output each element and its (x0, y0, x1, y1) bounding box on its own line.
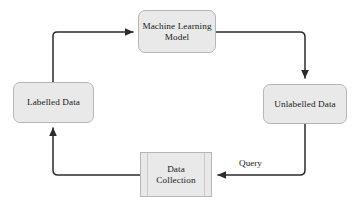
node-machine-learning-model[interactable]: Machine Learning Model (138, 10, 216, 53)
node-unlabelled-data[interactable]: Unlabelled Data (263, 84, 347, 124)
edge-collection-to-labelled (53, 128, 140, 175)
node-data-collection[interactable]: Data Collection (140, 152, 212, 197)
node-machine-learning-model-label: Machine Learning Model (139, 21, 214, 42)
node-labelled-data[interactable]: Labelled Data (13, 82, 94, 123)
node-unlabelled-data-label: Unlabelled Data (271, 99, 338, 109)
node-data-collection-label: Data Collection (153, 164, 198, 185)
edge-label-query: Query (239, 158, 262, 168)
edge-labelled-to-ml (53, 32, 133, 82)
node-labelled-data-label: Labelled Data (24, 97, 83, 107)
edge-ml-to-unlabelled (216, 32, 305, 78)
diagram-canvas: Machine Learning Model Unlabelled Data D… (0, 0, 352, 205)
